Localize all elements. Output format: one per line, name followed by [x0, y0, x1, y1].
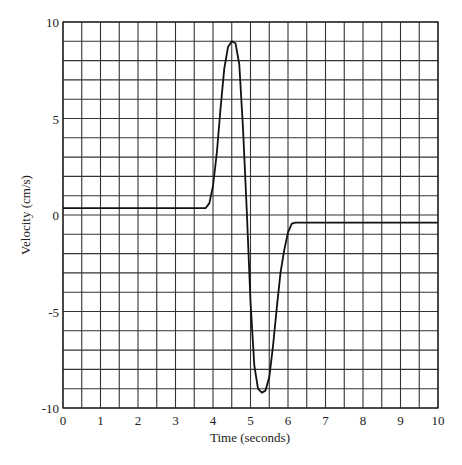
x-tick-label: 7	[322, 413, 329, 428]
grid	[63, 22, 438, 408]
x-tick-label: 6	[285, 413, 292, 428]
y-axis-ticks: 1050-5-10	[42, 15, 59, 416]
x-tick-label: 3	[172, 413, 179, 428]
x-axis-ticks: 012345678910	[60, 413, 445, 428]
x-tick-label: 8	[360, 413, 367, 428]
y-axis-label: Velocity (cm/s)	[18, 175, 33, 255]
x-tick-label: 1	[97, 413, 104, 428]
x-tick-label: 9	[397, 413, 404, 428]
x-axis-label: Time (seconds)	[210, 430, 290, 445]
y-tick-label: -5	[48, 305, 59, 320]
x-tick-label: 4	[210, 413, 217, 428]
y-tick-label: 0	[53, 208, 60, 223]
x-tick-label: 5	[247, 413, 254, 428]
x-tick-label: 10	[432, 413, 445, 428]
x-tick-label: 2	[135, 413, 142, 428]
velocity-chart: 012345678910 1050-5-10 Time (seconds) Ve…	[0, 0, 462, 465]
x-tick-label: 0	[60, 413, 67, 428]
y-tick-label: 10	[46, 15, 59, 30]
y-tick-label: -10	[42, 401, 59, 416]
y-tick-label: 5	[53, 112, 60, 127]
